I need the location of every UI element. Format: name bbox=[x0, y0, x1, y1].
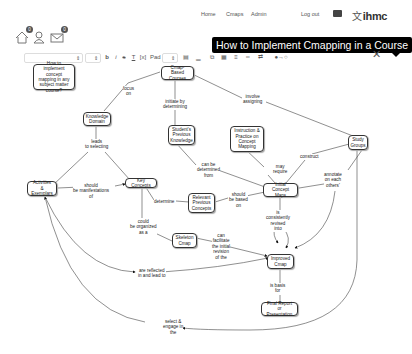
link-may-require[interactable]: may require bbox=[273, 164, 287, 175]
concept-node-improved[interactable]: Improved Cmap bbox=[267, 254, 294, 269]
link-revised[interactable]: is consistently revised into bbox=[266, 210, 290, 232]
link-initiate[interactable]: initiate by determining bbox=[163, 99, 187, 110]
link-based-on[interactable]: should be based on bbox=[229, 192, 248, 208]
link-involve[interactable]: involve assigning bbox=[243, 94, 262, 105]
link-organized[interactable]: could be organized as a bbox=[130, 219, 157, 235]
link-facilitate[interactable]: can facilitate the initial revision of t… bbox=[212, 233, 230, 260]
concept-node-student-knowledge[interactable]: Student's Previous Knowledge bbox=[168, 125, 195, 145]
concept-node-initial-maps[interactable]: Initial Concept Maps bbox=[263, 183, 298, 197]
link-annotate[interactable]: annotate on each others' bbox=[324, 172, 342, 188]
link-reflected[interactable]: are reflected in and lead to bbox=[138, 268, 166, 279]
link-basis[interactable]: is basis for bbox=[270, 283, 285, 294]
concept-node-question[interactable]: How to implement concept mapping in any … bbox=[33, 64, 75, 90]
link-focus-on[interactable]: focus on bbox=[123, 86, 134, 97]
link-construct[interactable]: construct bbox=[300, 154, 319, 159]
concept-node-cmap-courses[interactable]: Cmap-Based Courses bbox=[161, 66, 194, 80]
concept-node-activities[interactable]: Activities & Exemplars bbox=[27, 181, 57, 196]
concept-node-study-groups[interactable]: Study Groups bbox=[348, 135, 368, 150]
link-leads[interactable]: leads to selecting bbox=[85, 139, 108, 150]
concept-node-final[interactable]: Final Report or Presentation bbox=[261, 302, 298, 316]
concept-node-skeleton[interactable]: Skeleton Cmap bbox=[172, 233, 197, 248]
link-select-engage[interactable]: select & engage in the bbox=[163, 319, 183, 335]
concept-node-knowledge-domain[interactable]: Knowledge Domain bbox=[83, 112, 111, 126]
concept-node-key-concepts[interactable]: Key Concepts bbox=[125, 178, 157, 188]
link-can-be-determined[interactable]: can be determined from bbox=[197, 162, 220, 178]
link-manifestations[interactable]: should be manifestations of bbox=[73, 183, 109, 199]
concept-node-relevant-concepts[interactable]: Relevant Previous Concepts bbox=[188, 193, 215, 213]
concept-node-instruction[interactable]: Instruction & Practice on Concept Mappin… bbox=[230, 126, 264, 152]
link-determine[interactable]: determine bbox=[154, 199, 174, 204]
